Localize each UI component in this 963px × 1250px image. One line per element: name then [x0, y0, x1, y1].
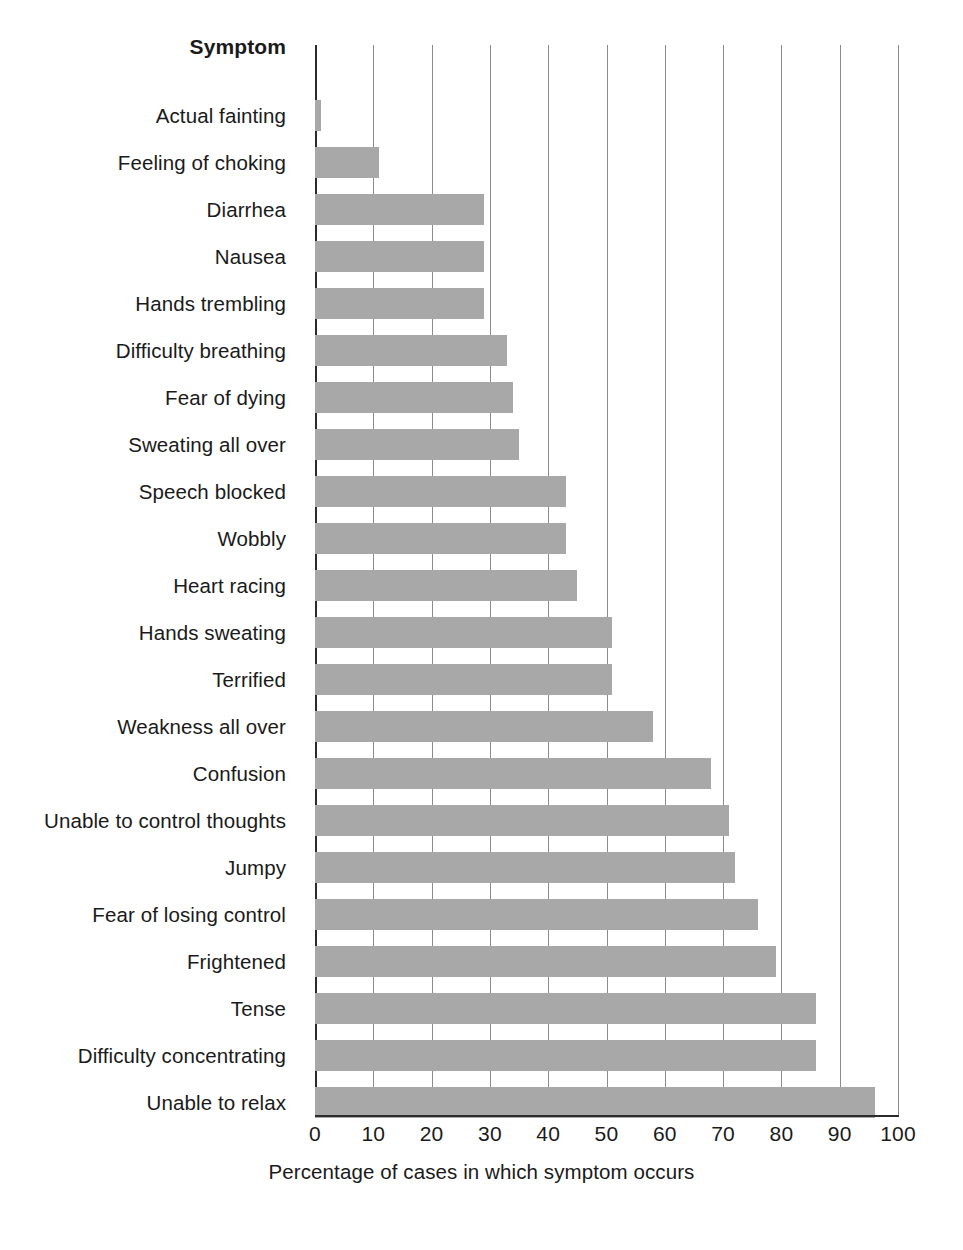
y-axis-tick-label: Difficulty breathing: [0, 327, 300, 374]
y-axis-tick-label: Difficulty concentrating: [0, 1032, 300, 1079]
bar-band: [315, 421, 898, 468]
bar[interactable]: [315, 570, 577, 601]
bar[interactable]: [315, 523, 566, 554]
bar[interactable]: [315, 429, 519, 460]
bar-band: [315, 609, 898, 656]
bar[interactable]: [315, 1087, 875, 1118]
y-axis-tick-label: Actual fainting: [0, 92, 300, 139]
bar-band: [315, 92, 898, 139]
y-axis-tick-label: Jumpy: [0, 844, 300, 891]
y-axis-tick-label: Diarrhea: [0, 186, 300, 233]
y-axis-tick-label: Fear of dying: [0, 374, 300, 421]
y-axis-header-label: Symptom: [190, 35, 300, 59]
bar[interactable]: [315, 711, 653, 742]
y-axis-tick-label: Fear of losing control: [0, 891, 300, 938]
y-axis-tick-label: Unable to relax: [0, 1079, 300, 1126]
y-axis-tick-label: Terrified: [0, 656, 300, 703]
y-axis-tick-label: Tense: [0, 985, 300, 1032]
bar[interactable]: [315, 335, 507, 366]
bar[interactable]: [315, 241, 484, 272]
bar[interactable]: [315, 899, 758, 930]
bar-band: [315, 938, 898, 985]
bar[interactable]: [315, 100, 321, 131]
bar[interactable]: [315, 946, 776, 977]
bar-band: [315, 797, 898, 844]
bar-band: [315, 186, 898, 233]
bar-band: [315, 468, 898, 515]
bar[interactable]: [315, 1040, 816, 1071]
bar[interactable]: [315, 476, 566, 507]
bar[interactable]: [315, 805, 729, 836]
bar[interactable]: [315, 852, 735, 883]
y-axis-tick-label: Frightened: [0, 938, 300, 985]
y-axis-tick-label: Wobbly: [0, 515, 300, 562]
bar-band: [315, 985, 898, 1032]
y-axis-tick-label: Speech blocked: [0, 468, 300, 515]
bar-band: [315, 233, 898, 280]
bar-band: [315, 280, 898, 327]
y-axis-tick-label: Heart racing: [0, 562, 300, 609]
horizontal-bar-chart: Symptom Actual faintingFeeling of chokin…: [0, 0, 963, 1250]
bar[interactable]: [315, 194, 484, 225]
bar-band: [315, 374, 898, 421]
y-axis-tick-label: Confusion: [0, 750, 300, 797]
bar[interactable]: [315, 993, 816, 1024]
y-axis-header: Symptom: [0, 32, 300, 62]
plot-area: [315, 45, 898, 1115]
bar[interactable]: [315, 758, 711, 789]
y-axis-tick-label: Feeling of choking: [0, 139, 300, 186]
y-axis-tick-label: Weakness all over: [0, 703, 300, 750]
bar-band: [315, 515, 898, 562]
bar-band: [315, 327, 898, 374]
y-axis-tick-label: Sweating all over: [0, 421, 300, 468]
y-axis-tick-label: Hands trembling: [0, 280, 300, 327]
bar[interactable]: [315, 382, 513, 413]
y-axis-tick-label: Unable to control thoughts: [0, 797, 300, 844]
x-axis-title: Percentage of cases in which symptom occ…: [0, 1160, 963, 1184]
bar[interactable]: [315, 617, 612, 648]
x-axis-line: [315, 1115, 899, 1117]
bar[interactable]: [315, 147, 379, 178]
bar[interactable]: [315, 664, 612, 695]
bar-band: [315, 656, 898, 703]
bar-band: [315, 750, 898, 797]
bar-band: [315, 703, 898, 750]
y-axis-tick-label: Hands sweating: [0, 609, 300, 656]
bar-band: [315, 1032, 898, 1079]
bar-band: [315, 891, 898, 938]
y-axis-tick-label: Nausea: [0, 233, 300, 280]
bar-band: [315, 139, 898, 186]
bar-band: [315, 844, 898, 891]
x-axis-tick-label: 100: [863, 1122, 933, 1146]
bar-band: [315, 562, 898, 609]
bar-band: [315, 1079, 898, 1126]
bar[interactable]: [315, 288, 484, 319]
gridline-100: [898, 45, 899, 1115]
